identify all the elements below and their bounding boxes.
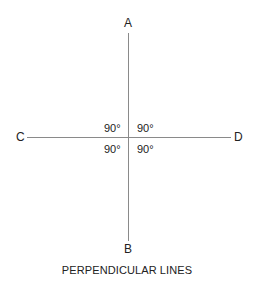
point-label-c: C <box>16 131 25 143</box>
line-cd <box>27 137 231 138</box>
diagram-title: PERPENDICULAR LINES <box>0 264 254 276</box>
angle-upper-left: 90° <box>104 122 121 134</box>
angle-upper-right: 90° <box>137 122 154 134</box>
angle-lower-right: 90° <box>137 143 154 155</box>
point-label-a: A <box>124 17 132 29</box>
angle-lower-left: 90° <box>104 143 121 155</box>
point-label-b: B <box>124 243 132 255</box>
point-label-d: D <box>234 131 243 143</box>
